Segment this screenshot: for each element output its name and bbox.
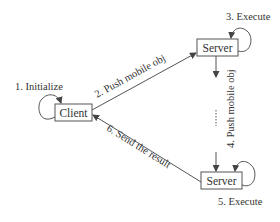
server-top-label: Server <box>202 42 232 54</box>
client-node: Client <box>55 104 92 121</box>
client-label: Client <box>59 107 88 119</box>
server-bottom-node: Server <box>201 172 242 189</box>
step-2-label: 2. Push mobile obj <box>93 52 167 100</box>
server-top-node: Server <box>197 39 238 56</box>
step-4-label: 4. Push mobile obj <box>225 69 236 148</box>
step-3-label: 3. Execute <box>226 11 271 22</box>
server-bottom-label: Server <box>206 175 236 187</box>
step-6-label: 6. Send the result <box>105 122 173 170</box>
client-server-diagram: Client Server Server 1. Initialize 2. Pu… <box>0 0 280 222</box>
step-1-label: 1. Initialize <box>15 81 63 92</box>
step-5-label: 5. Execute <box>218 196 263 207</box>
